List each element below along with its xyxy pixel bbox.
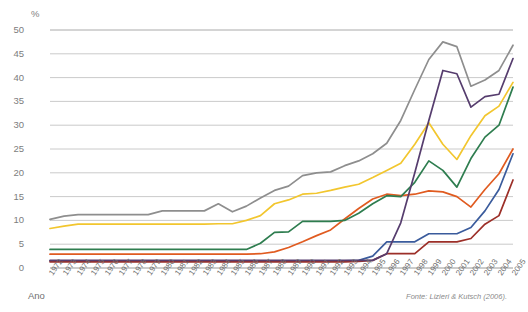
y-axis-tick: 15 — [0, 192, 24, 202]
series-gold — [50, 82, 513, 228]
y-axis-tick: 50 — [0, 25, 24, 35]
y-axis-tick: 10 — [0, 215, 24, 225]
y-axis-tick: 35 — [0, 96, 24, 106]
gridlines — [50, 30, 513, 244]
y-axis-tick: 5 — [0, 239, 24, 249]
series-blue — [50, 154, 513, 261]
source-citation: Fonte: Lizieri & Kutsch (2006). — [406, 292, 507, 301]
x-axis-title: Ano — [28, 290, 45, 301]
y-axis-tick: 25 — [0, 144, 24, 154]
y-axis-tick: 40 — [0, 73, 24, 83]
series-green — [50, 87, 513, 249]
y-axis-tick: 20 — [0, 168, 24, 178]
y-axis-tick: 0 — [0, 263, 24, 273]
series-purple — [50, 59, 513, 261]
y-axis-tick: 30 — [0, 120, 24, 130]
y-axis-tick: 45 — [0, 49, 24, 59]
series-lines — [50, 42, 513, 262]
